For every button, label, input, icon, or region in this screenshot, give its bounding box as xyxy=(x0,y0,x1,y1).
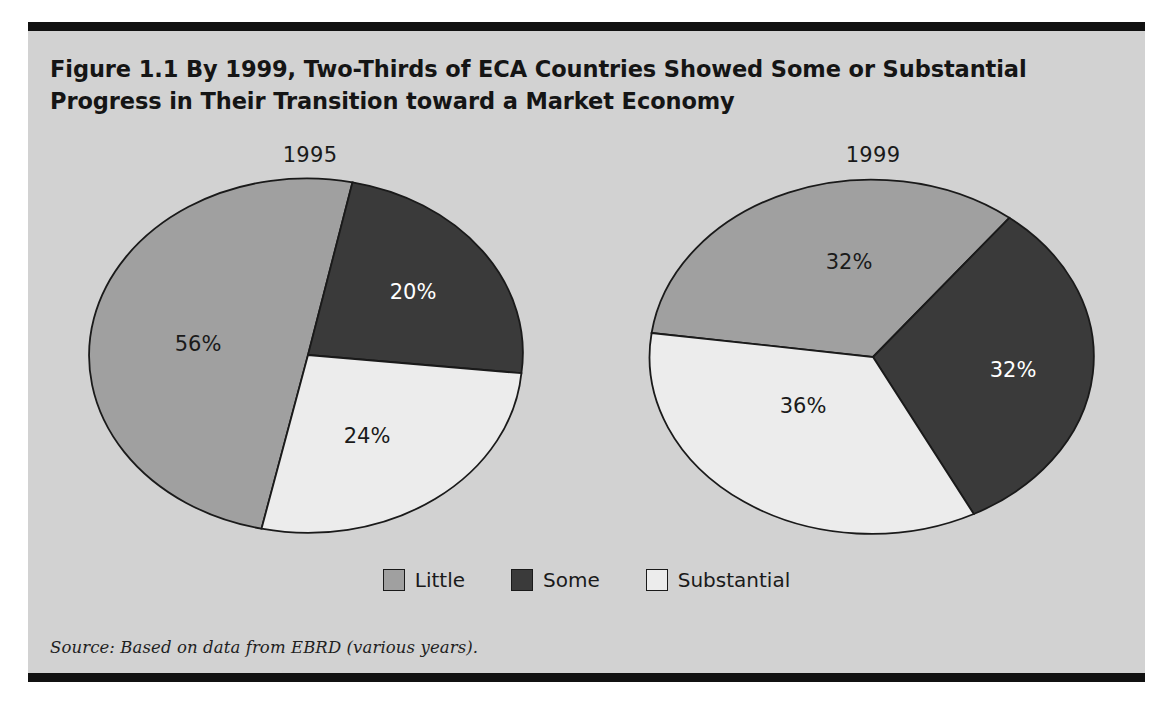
legend-label-substantial: Substantial xyxy=(678,569,790,591)
pie-value-1999-some: 32% xyxy=(990,358,1037,382)
figure-title-line-2: Progress in Their Transition toward a Ma… xyxy=(50,85,1115,117)
pie-value-1999-substantial: 36% xyxy=(780,394,827,418)
pie-year-label-1995: 1995 xyxy=(60,143,560,169)
figure-panel: Figure 1.1 By 1999, Two-Thirds of ECA Co… xyxy=(28,31,1145,673)
figure-title-line-1: Figure 1.1 By 1999, Two-Thirds of ECA Co… xyxy=(50,53,1115,85)
pie-value-1995-some: 20% xyxy=(390,280,437,304)
pie-value-1999-little: 32% xyxy=(826,250,873,274)
pie-value-1995-substantial: 24% xyxy=(344,424,391,448)
top-rule xyxy=(28,22,1145,31)
legend-label-some: Some xyxy=(543,569,600,591)
pie-svg-1999: 32% 32% 36% xyxy=(638,169,1108,541)
legend-label-little: Little xyxy=(415,569,465,591)
legend-swatch-little-icon xyxy=(383,569,405,591)
pie-value-1995-little: 56% xyxy=(175,332,222,356)
legend-item-some: Some xyxy=(511,569,600,591)
pie-slice-1995-substantial xyxy=(262,355,522,533)
legend-swatch-some-icon xyxy=(511,569,533,591)
figure-title: Figure 1.1 By 1999, Two-Thirds of ECA Co… xyxy=(50,53,1115,117)
pie-svg-1995: 56% 20% 24% xyxy=(80,169,540,537)
pie-year-label-1999: 1999 xyxy=(618,143,1128,169)
chart-legend: Little Some Substantial xyxy=(28,569,1145,591)
bottom-rule xyxy=(28,673,1145,682)
legend-swatch-substantial-icon xyxy=(646,569,668,591)
chart-area: 1995 56% 20% 24% 1999 xyxy=(28,143,1145,533)
pie-chart-1995: 1995 56% 20% 24% xyxy=(60,143,560,537)
pie-chart-1999: 1999 32% 32% 36% xyxy=(618,143,1128,541)
source-note: Source: Based on data from EBRD (various… xyxy=(50,638,478,657)
legend-item-little: Little xyxy=(383,569,465,591)
legend-item-substantial: Substantial xyxy=(646,569,790,591)
figure-frame: Figure 1.1 By 1999, Two-Thirds of ECA Co… xyxy=(28,22,1145,682)
